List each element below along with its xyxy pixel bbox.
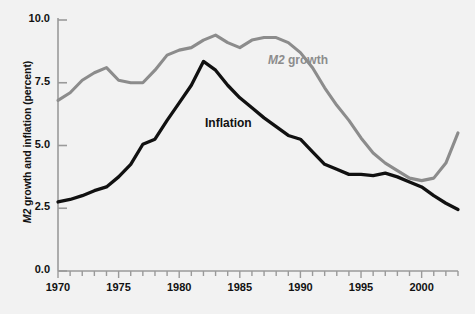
data-series-group [58,35,458,209]
y-tick-label: 10.0 [10,12,50,24]
chart-plot-area [0,0,475,314]
x-tick-label: 2000 [402,281,442,293]
annotation-text: growth [285,53,328,67]
x-tick-label: 1985 [220,281,260,293]
axis-lines [58,18,458,271]
y-tick-label: 5.0 [10,138,50,150]
axis-ticks [58,20,458,278]
series-line-inflation [58,61,458,209]
x-tick-label: 1970 [38,281,78,293]
series-line-m2-growth [58,35,458,181]
series-label-inflation: Inflation [205,116,252,130]
x-tick-label: 1995 [341,281,381,293]
x-tick-label: 1975 [99,281,139,293]
annotation-italic-prefix: M2 [268,53,285,67]
x-tick-label: 1990 [280,281,320,293]
series-label-m2-growth: M2 growth [268,53,328,67]
annotation-text: Inflation [205,116,252,130]
x-tick-label: 1980 [159,281,199,293]
chart-container: M2 growth and inflation (percent) 0.02.5… [0,0,475,314]
y-tick-label: 0.0 [10,263,50,275]
y-tick-label: 7.5 [10,75,50,87]
y-tick-label: 2.5 [10,200,50,212]
